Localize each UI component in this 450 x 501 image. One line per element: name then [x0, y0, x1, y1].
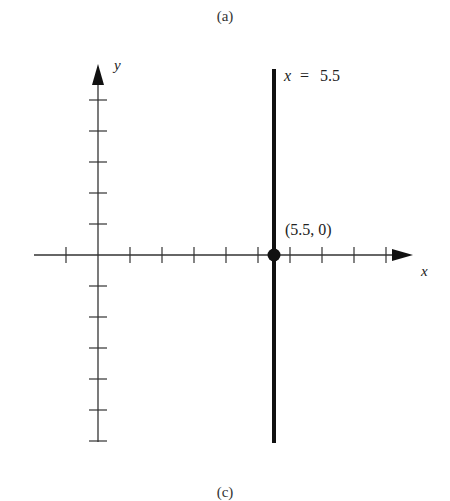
- point-marker: [268, 249, 281, 262]
- axes: [34, 64, 413, 442]
- line-equation-label: x = 5.5: [283, 67, 340, 84]
- y-axis-label: y: [112, 57, 121, 73]
- x-axis-label: x: [420, 263, 428, 279]
- equation-equals: =: [300, 67, 309, 84]
- figure-caption-bottom: (c): [0, 484, 450, 501]
- y-axis-arrow-icon: [92, 64, 104, 85]
- equation-rhs: 5.5: [320, 67, 340, 84]
- x-axis-arrow-icon: [392, 249, 413, 261]
- point-label: (5.5, 0): [285, 221, 332, 239]
- equation-lhs: x: [283, 67, 291, 84]
